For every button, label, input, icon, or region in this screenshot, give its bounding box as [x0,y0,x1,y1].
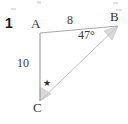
angle-label-b: 47° [78,29,95,41]
side-label-ab: 8 [67,14,73,26]
side-label-ac: 10 [17,57,29,69]
problem-number: 1 [5,16,13,30]
vertex-label-b: B [110,10,119,23]
star-icon: ★ [43,79,51,88]
vertex-label-c: C [33,101,42,114]
vertex-label-a: A [31,17,40,30]
geometry-figure: 1 A B C 8 10 47° ★ [0,0,128,124]
